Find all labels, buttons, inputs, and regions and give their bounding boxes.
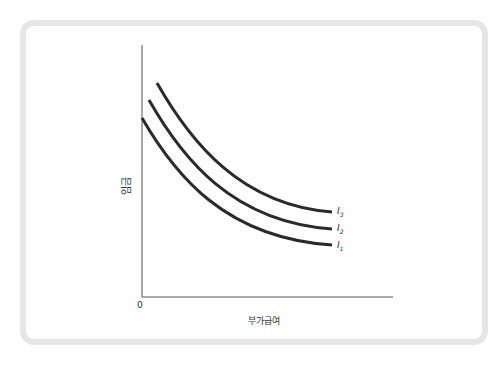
x-axis-label: 부가급여 bbox=[248, 314, 280, 327]
curve-label-subscript: 2 bbox=[340, 228, 344, 235]
curve-i2 bbox=[149, 100, 332, 229]
origin-label: 0 bbox=[137, 300, 143, 310]
curve-label-i1: I1 bbox=[337, 240, 343, 252]
y-axis-label: 임금 bbox=[118, 177, 133, 195]
curve-label-subscript: 3 bbox=[340, 211, 344, 218]
curve-i3 bbox=[157, 83, 332, 212]
curve-label-subscript: 1 bbox=[340, 245, 344, 252]
curve-label-i3: I3 bbox=[337, 206, 343, 218]
indifference-curve-chart bbox=[0, 0, 500, 367]
curve-label-i2: I2 bbox=[337, 223, 343, 235]
